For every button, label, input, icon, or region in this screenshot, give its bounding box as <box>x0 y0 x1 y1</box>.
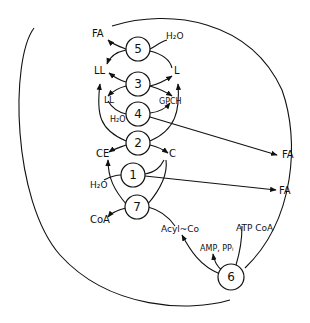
svg-text:3: 3 <box>134 77 142 91</box>
label-ce: CE <box>96 148 109 159</box>
label-h2o-4: H₂O <box>110 115 126 124</box>
svg-text:5: 5 <box>134 42 142 56</box>
node-2: 2 <box>126 131 150 155</box>
outer-cycle <box>19 19 292 306</box>
svg-text:6: 6 <box>227 270 235 284</box>
label-c: C <box>169 148 176 159</box>
node-3: 3 <box>126 72 150 96</box>
svg-text:2: 2 <box>134 136 142 150</box>
node-5: 5 <box>126 37 150 61</box>
svg-text:4: 4 <box>134 107 142 121</box>
label-h2o-5: H₂O <box>166 31 183 41</box>
label-l: L <box>174 65 180 76</box>
label-fa-right-2: FA <box>279 185 291 196</box>
label-atp-coa: ATP CoA <box>236 223 274 233</box>
label-ll-lower: LL <box>104 95 114 105</box>
node-1: 1 <box>121 163 145 187</box>
label-acyl-coa: Acyl~Co <box>161 224 200 234</box>
label-coa: CoA <box>90 214 110 225</box>
label-ll-upper: LL <box>94 65 106 76</box>
label-amp-ppi: AMP, PPᵢ <box>200 244 233 253</box>
node-4: 4 <box>126 102 150 126</box>
label-fa-top: FA <box>92 28 104 39</box>
label-gpch: GPCH <box>159 97 182 106</box>
metabolic-diagram: 5 3 4 2 1 7 6 FA H₂O LL L LL GPCH H₂O CE… <box>0 0 310 323</box>
node-6: 6 <box>218 264 244 290</box>
svg-text:1: 1 <box>129 168 137 182</box>
svg-text:7: 7 <box>133 200 141 214</box>
label-fa-right-1: FA <box>282 149 294 160</box>
node-7: 7 <box>125 195 149 219</box>
label-h2o-1: H₂O <box>90 180 107 190</box>
